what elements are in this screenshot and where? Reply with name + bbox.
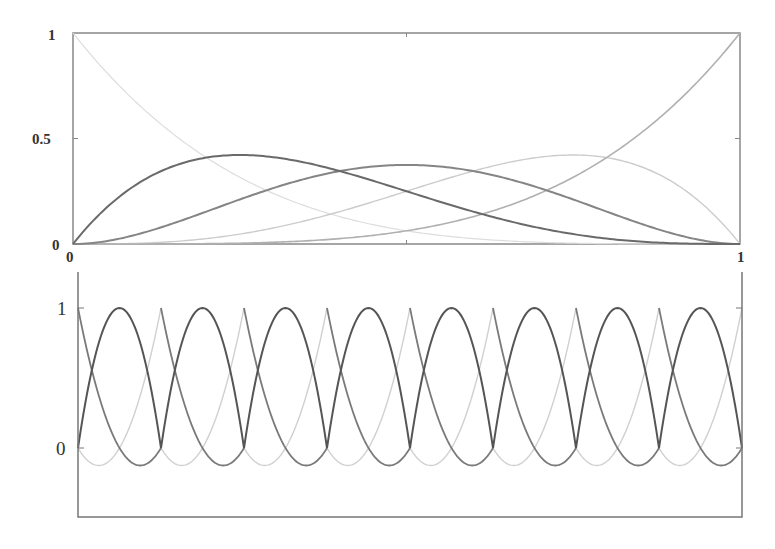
- bottom-y-label-0: 0: [56, 438, 66, 459]
- figure: 1 0.5 0 0 1 1 0: [0, 0, 775, 549]
- top-x-label-1: 1: [737, 249, 745, 265]
- bottom-y-label-1: 1: [57, 298, 67, 319]
- top-axis-ticks: [73, 33, 740, 244]
- bernstein-curve-4: [73, 33, 740, 244]
- bottom-curves: [78, 308, 742, 466]
- figure-canvas: 1 0.5 0 0 1 1 0: [0, 0, 775, 549]
- top-y-label-0-5: 0.5: [32, 131, 51, 147]
- top-plot-frame: [73, 33, 740, 244]
- lagrange-plot-panel: 1 0: [56, 272, 742, 517]
- top-curves: [73, 33, 740, 244]
- bernstein-curve-2: [73, 165, 740, 244]
- top-x-label-0: 0: [66, 249, 74, 265]
- bernstein-curve-0: [73, 33, 740, 244]
- top-y-label-1: 1: [48, 27, 56, 43]
- bernstein-plot-panel: 1 0.5 0 0 1: [32, 27, 745, 265]
- top-y-label-0: 0: [52, 237, 60, 253]
